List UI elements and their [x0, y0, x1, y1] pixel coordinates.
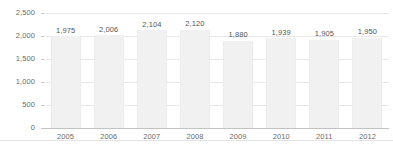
x-tick-label-2009: 2009: [217, 131, 260, 145]
bar-2007[interactable]: [137, 30, 167, 128]
bar-2010[interactable]: [266, 38, 296, 128]
bar-slot-2011: 1,905: [303, 12, 346, 128]
bar-2012[interactable]: [352, 38, 382, 129]
bar-value-2008: 2,120: [173, 19, 216, 28]
y-axis: 2,500 2,000 1,500 1,000 500 0: [0, 0, 40, 149]
bar-chart: 2,500 2,000 1,500 1,000 500 0 1,975 2,00…: [0, 0, 393, 149]
y-tick-label-1000: 1,000: [16, 78, 35, 86]
x-tick-label-2006: 2006: [87, 131, 130, 145]
bar-value-2007: 2,104: [130, 20, 173, 29]
x-tick-label-2008: 2008: [173, 131, 216, 145]
figure-bottom-border: [0, 140, 393, 141]
bar-value-2012: 1,950: [346, 27, 389, 36]
bar-2011[interactable]: [309, 40, 339, 128]
x-tick-label-2007: 2007: [130, 131, 173, 145]
bar-slot-2010: 1,939: [260, 12, 303, 128]
x-tick-label-2012: 2012: [346, 131, 389, 145]
bar-series: 1,975 2,006 2,104 2,120 1,880 1,939 1,90…: [44, 12, 389, 128]
x-tick-label-2011: 2011: [303, 131, 346, 145]
bar-2009[interactable]: [223, 41, 253, 128]
bar-slot-2007: 2,104: [130, 12, 173, 128]
x-axis-line: [41, 128, 389, 129]
bar-2005[interactable]: [51, 36, 81, 128]
bar-value-2006: 2,006: [87, 25, 130, 34]
x-tick-label-2010: 2010: [260, 131, 303, 145]
y-tick-label-500: 500: [22, 101, 35, 109]
bar-slot-2005: 1,975: [44, 12, 87, 128]
bar-slot-2009: 1,880: [217, 12, 260, 128]
bar-value-2011: 1,905: [303, 29, 346, 38]
y-tick-label-0: 0: [31, 124, 35, 132]
bar-slot-2012: 1,950: [346, 12, 389, 128]
bar-value-2010: 1,939: [260, 28, 303, 37]
x-tick-label-2005: 2005: [44, 131, 87, 145]
bar-value-2009: 1,880: [217, 30, 260, 39]
bar-2006[interactable]: [94, 35, 124, 128]
bar-value-2005: 1,975: [44, 26, 87, 35]
bar-2008[interactable]: [180, 30, 210, 128]
y-tick-label-2000: 2,000: [16, 32, 35, 40]
y-tick-label-2500: 2,500: [16, 9, 35, 17]
x-axis: 2005 2006 2007 2008 2009 2010 2011 2012: [44, 131, 389, 145]
bar-slot-2006: 2,006: [87, 12, 130, 128]
y-tick-label-1500: 1,500: [16, 55, 35, 63]
bar-slot-2008: 2,120: [173, 12, 216, 128]
